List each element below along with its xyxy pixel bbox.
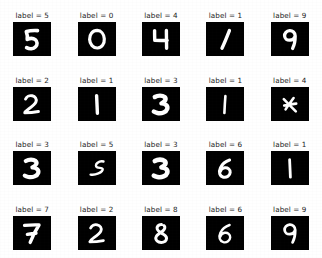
digit-image	[206, 216, 244, 250]
digit-cell: label = 6	[193, 194, 257, 258]
digit-image	[142, 87, 180, 121]
digit-label: label = 4	[144, 11, 177, 20]
digit-cell: label = 3	[129, 65, 193, 130]
digit-cell: label = 1	[258, 129, 322, 194]
digit-label: label = 5	[80, 140, 113, 149]
digit-cell: label = 9	[258, 0, 322, 65]
digit-label: label = 7	[15, 205, 48, 214]
digit-label: label = 3	[15, 140, 48, 149]
digit-label: label = 1	[273, 140, 306, 149]
digit-image	[142, 151, 180, 185]
digit-image	[206, 22, 244, 56]
digit-cell: label = 6	[193, 129, 257, 194]
digit-image	[78, 87, 116, 121]
digit-label: label = 2	[80, 205, 113, 214]
digit-label: label = 3	[144, 140, 177, 149]
digit-label: label = 4	[273, 76, 306, 85]
digit-image	[206, 151, 244, 185]
digit-label: label = 6	[209, 205, 242, 214]
digit-image	[13, 87, 51, 121]
digit-label: label = 3	[144, 76, 177, 85]
digit-image	[78, 216, 116, 250]
digit-cell: label = 7	[0, 194, 64, 258]
digit-cell: label = 4	[258, 65, 322, 130]
digit-label: label = 2	[15, 76, 48, 85]
digit-cell: label = 4	[129, 0, 193, 65]
digit-grid: label = 5label = 0label = 4label = 1labe…	[0, 0, 322, 258]
digit-label: label = 1	[209, 11, 242, 20]
digit-image	[271, 87, 309, 121]
digit-image	[78, 151, 116, 185]
digit-image	[271, 216, 309, 250]
digit-image	[142, 22, 180, 56]
digit-image	[142, 216, 180, 250]
digit-cell: label = 1	[193, 0, 257, 65]
digit-cell: label = 2	[0, 65, 64, 130]
digit-label: label = 9	[273, 205, 306, 214]
digit-image	[13, 22, 51, 56]
digit-image	[206, 87, 244, 121]
digit-cell: label = 2	[64, 194, 128, 258]
digit-cell: label = 9	[258, 194, 322, 258]
digit-cell: label = 3	[129, 129, 193, 194]
digit-cell: label = 1	[193, 65, 257, 130]
digit-label: label = 1	[209, 76, 242, 85]
digit-cell: label = 5	[0, 0, 64, 65]
digit-label: label = 8	[144, 205, 177, 214]
digit-cell: label = 0	[64, 0, 128, 65]
digit-image	[271, 22, 309, 56]
digit-cell: label = 8	[129, 194, 193, 258]
digit-label: label = 6	[209, 140, 242, 149]
digit-cell: label = 5	[64, 129, 128, 194]
digit-image	[13, 151, 51, 185]
digit-label: label = 0	[80, 11, 113, 20]
digit-image	[271, 151, 309, 185]
digit-image	[78, 22, 116, 56]
digit-sample-figure: label = 5label = 0label = 4label = 1labe…	[0, 0, 322, 258]
digit-label: label = 5	[15, 11, 48, 20]
digit-image	[13, 216, 51, 250]
digit-cell: label = 1	[64, 65, 128, 130]
digit-label: label = 1	[80, 76, 113, 85]
digit-cell: label = 3	[0, 129, 64, 194]
digit-label: label = 9	[273, 11, 306, 20]
